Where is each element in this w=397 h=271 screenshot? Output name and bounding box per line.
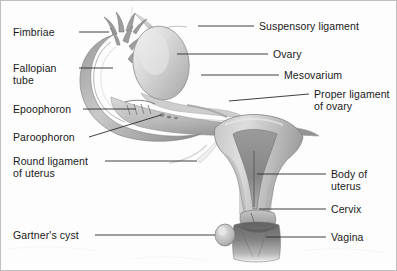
label-fimbriae: Fimbriae bbox=[13, 27, 55, 39]
label-body-of-uterus-line2: uterus bbox=[331, 181, 367, 193]
gartners-cyst bbox=[215, 224, 235, 246]
label-ovary-line1: Ovary bbox=[273, 49, 302, 61]
label-proper-ligament-ovary-line2: of ovary bbox=[314, 101, 390, 113]
label-vagina-line1: Vagina bbox=[331, 232, 364, 244]
label-suspensory-ligament-line1: Suspensory ligament bbox=[259, 21, 359, 33]
vagina bbox=[233, 222, 281, 262]
label-mesovarium: Mesovarium bbox=[284, 70, 342, 82]
label-gartners-cyst: Gartner's cyst bbox=[13, 230, 79, 242]
label-cervix-line1: Cervix bbox=[331, 204, 361, 216]
label-mesovarium-line1: Mesovarium bbox=[284, 70, 342, 82]
label-round-ligament: Round ligamentof uterus bbox=[13, 156, 88, 179]
label-paroophoron-line1: Paroophoron bbox=[13, 132, 75, 144]
label-proper-ligament-ovary: Proper ligamentof ovary bbox=[314, 89, 390, 112]
label-epoophoron: Epoophoron bbox=[13, 104, 71, 116]
label-round-ligament-line2: of uterus bbox=[13, 168, 88, 180]
label-cervix: Cervix bbox=[331, 204, 361, 216]
label-body-of-uterus: Body ofuterus bbox=[331, 169, 367, 192]
label-suspensory-ligament: Suspensory ligament bbox=[259, 21, 359, 33]
label-epoophoron-line1: Epoophoron bbox=[13, 104, 71, 116]
ovary bbox=[128, 22, 194, 103]
label-body-of-uterus-line1: Body of bbox=[331, 169, 367, 181]
label-fallopian-tube: Fallopiantube bbox=[13, 63, 57, 86]
label-round-ligament-line1: Round ligament bbox=[13, 156, 88, 168]
label-vagina: Vagina bbox=[331, 232, 364, 244]
label-fimbriae-line1: Fimbriae bbox=[13, 27, 55, 39]
anatomy-figure: FimbriaeFallopiantubeEpoophoronParoophor… bbox=[0, 0, 397, 271]
label-paroophoron: Paroophoron bbox=[13, 132, 75, 144]
label-ovary: Ovary bbox=[273, 49, 302, 61]
label-proper-ligament-ovary-line1: Proper ligament bbox=[314, 89, 390, 101]
label-gartners-cyst-line1: Gartner's cyst bbox=[13, 230, 79, 242]
label-fallopian-tube-line1: Fallopian bbox=[13, 63, 57, 75]
scan-texture bbox=[9, 247, 387, 261]
label-fallopian-tube-line2: tube bbox=[13, 75, 57, 87]
